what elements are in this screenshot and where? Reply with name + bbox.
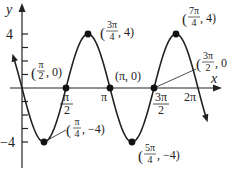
- label-7pi4: ( 7π 4 , 4): [182, 5, 216, 28]
- svg-text:4: 4: [75, 128, 80, 139]
- svg-text:, 0): , 0): [46, 65, 62, 79]
- point-5pi4: [129, 139, 136, 146]
- svg-text:2: 2: [158, 103, 164, 117]
- y-tick-neg4: −4: [0, 135, 15, 150]
- svg-text:, 4): , 4): [118, 25, 134, 39]
- point-pi4: [41, 139, 48, 146]
- point-pi: [107, 85, 114, 92]
- y-axis-label: y: [4, 2, 13, 17]
- point-3pi4: [85, 31, 92, 38]
- label-pi2: ( π 2 , 0): [31, 59, 62, 82]
- y-axis-arrow-icon: [19, 3, 26, 12]
- svg-text:, 4): , 4): [200, 11, 216, 25]
- label-pi: (π, 0): [115, 69, 141, 83]
- svg-text:2: 2: [64, 103, 70, 117]
- svg-text:3π: 3π: [203, 50, 213, 61]
- label-3pi4: ( 3π 4 , 4): [100, 19, 134, 42]
- svg-text:π: π: [63, 90, 69, 104]
- x-tick-3pi2: 3π 2: [153, 90, 169, 117]
- svg-text:, 0: , 0: [215, 56, 227, 70]
- svg-text:(: (: [138, 148, 143, 165]
- x-tick-pi: π: [101, 90, 107, 104]
- curve-arrow-left-icon: [12, 54, 18, 63]
- svg-text:(: (: [100, 25, 105, 42]
- graph: y x 4 −4 π 2 π 3π 2 2π ( π 2 , 0) ( 3π 4…: [0, 0, 231, 170]
- svg-text:3π: 3π: [107, 19, 117, 30]
- svg-text:, −4): , −4): [157, 148, 180, 162]
- point-7pi4: [173, 31, 180, 38]
- svg-text:(: (: [182, 11, 187, 28]
- svg-text:2: 2: [206, 62, 211, 73]
- y-tick-4: 4: [6, 27, 13, 42]
- svg-text:(: (: [196, 56, 201, 73]
- label-3pi2: ( 3π 2 , 0: [196, 50, 227, 73]
- svg-text:4: 4: [110, 31, 115, 42]
- svg-text:4: 4: [192, 17, 197, 28]
- svg-text:, −4): , −4): [82, 122, 105, 136]
- svg-text:π: π: [38, 59, 43, 70]
- svg-text:7π: 7π: [189, 5, 199, 16]
- svg-text:(: (: [31, 65, 36, 82]
- curve-arrow-right-icon: [202, 114, 208, 123]
- svg-text:4: 4: [148, 154, 153, 165]
- label-pi4: ( π 4 , −4): [66, 116, 105, 139]
- svg-text:3π: 3π: [155, 90, 167, 104]
- x-tick-2pi: 2π: [184, 90, 196, 104]
- svg-text:(: (: [66, 122, 71, 139]
- svg-text:2: 2: [39, 70, 44, 81]
- svg-text:π: π: [74, 116, 79, 127]
- x-axis-label: x: [210, 71, 218, 86]
- label-5pi4: ( 5π 4 , −4): [138, 142, 180, 165]
- svg-text:5π: 5π: [145, 142, 155, 153]
